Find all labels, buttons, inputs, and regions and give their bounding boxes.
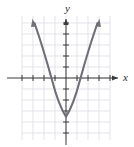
math-graph-figure: y x xyxy=(0,0,134,147)
x-axis xyxy=(7,75,118,80)
y-axis xyxy=(63,19,68,145)
coordinate-plane xyxy=(0,0,134,147)
y-axis-label: y xyxy=(65,3,70,14)
x-axis-label: x xyxy=(123,72,128,83)
